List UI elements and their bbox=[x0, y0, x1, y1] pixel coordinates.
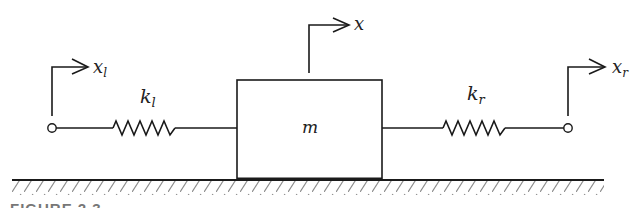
mass-block: m bbox=[237, 80, 382, 179]
svg-text:xr: xr bbox=[612, 56, 629, 80]
right-spring-label: k bbox=[467, 82, 479, 104]
right-spring-subscript: r bbox=[479, 92, 486, 107]
right-spring bbox=[382, 121, 564, 135]
right-displacement-label: x bbox=[612, 56, 622, 77]
left-spring-subscript: l bbox=[152, 95, 156, 110]
left-displacement-arrow-icon bbox=[52, 59, 88, 116]
right-displacement-arrow-icon bbox=[568, 59, 605, 116]
left-displacement-label: x bbox=[93, 56, 103, 77]
right-terminal bbox=[564, 124, 572, 132]
left-spring-label: k bbox=[140, 85, 152, 107]
mass-displacement-label: x bbox=[354, 13, 364, 34]
mass-spring-diagram: m kl kr xl x xr bbox=[0, 0, 643, 208]
mass-displacement-arrow-icon bbox=[309, 18, 349, 73]
left-displacement-subscript: l bbox=[103, 66, 107, 80]
ground bbox=[12, 180, 604, 195]
left-spring bbox=[56, 121, 237, 135]
svg-text:kl: kl bbox=[140, 85, 156, 110]
figure-caption: FIGURE 2.3 ... bbox=[10, 200, 122, 208]
svg-text:kr: kr bbox=[467, 82, 486, 107]
left-terminal bbox=[48, 124, 56, 132]
mass-label: m bbox=[302, 117, 318, 137]
svg-text:xl: xl bbox=[93, 56, 107, 80]
right-displacement-subscript: r bbox=[622, 66, 629, 80]
